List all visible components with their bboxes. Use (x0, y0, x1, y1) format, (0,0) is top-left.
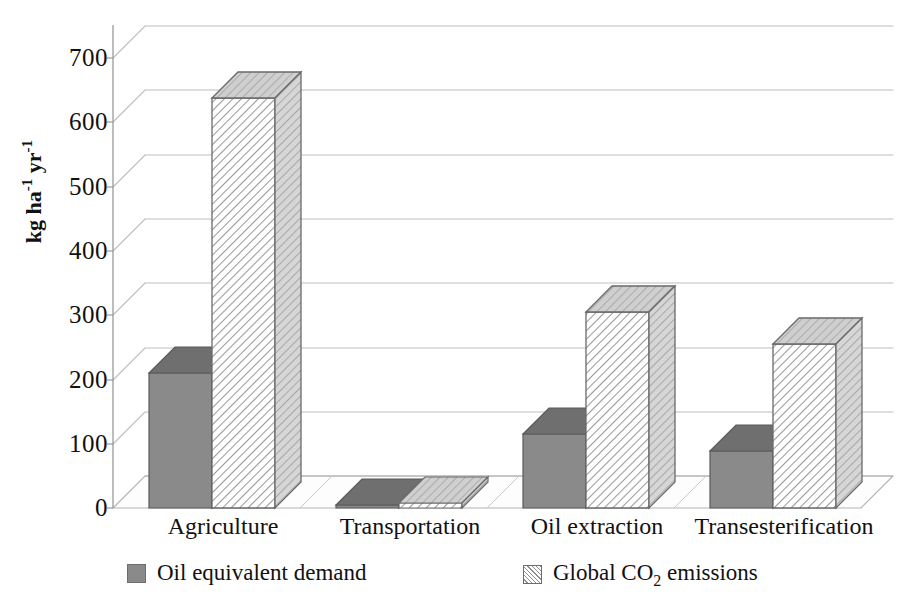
y-axis-title-exp2: -1 (19, 140, 35, 153)
category-label-agriculture: Agriculture (168, 513, 279, 540)
y-tick-400: 400 (69, 237, 108, 265)
category-label-transesterification: Transesterification (694, 513, 873, 540)
y-tick-600: 600 (69, 108, 108, 136)
legend-item-oil-equivalent-demand: Oil equivalent demand (127, 560, 367, 586)
category-label-oil-extraction: Oil extraction (531, 513, 664, 540)
legend-item-global-co2-emissions: Global CO2 emissions (523, 560, 758, 590)
y-axis-title-exp1: -1 (19, 179, 35, 192)
chart-legend: Oil equivalent demand Global CO2 emissio… (0, 552, 899, 594)
y-axis-title-base2: yr (21, 153, 46, 179)
legend-label-oil-equivalent-demand: Oil equivalent demand (157, 560, 367, 586)
y-tick-200: 200 (69, 366, 108, 394)
y-tick-700: 700 (69, 44, 108, 72)
legend-label-global-co2-emissions: Global CO2 emissions (553, 560, 758, 590)
bar-transesterification-global-co2-emissions (773, 318, 862, 508)
legend-swatch-solid-icon (127, 564, 146, 583)
legend-label-co2-pre: Global CO (553, 560, 653, 585)
y-tick-500: 500 (69, 173, 108, 201)
y-axis-title: kg ha-1 yr-1 (19, 97, 46, 287)
y-axis-title-base1: kg ha (21, 191, 46, 243)
bar-chart: 700 600 500 400 300 200 100 0 kg ha-1 yr… (0, 0, 899, 606)
y-tick-100: 100 (69, 430, 108, 458)
y-tick-300: 300 (69, 301, 108, 329)
x-axis-category-labels: Agriculture Transportation Oil extractio… (0, 513, 899, 549)
category-label-transportation: Transportation (340, 513, 480, 540)
legend-swatch-hatch-icon (523, 565, 542, 584)
legend-label-co2-post: emissions (661, 560, 757, 585)
bar-oil-extraction-global-co2-emissions (586, 286, 675, 508)
bar-agriculture-global-co2-emissions (212, 72, 301, 508)
